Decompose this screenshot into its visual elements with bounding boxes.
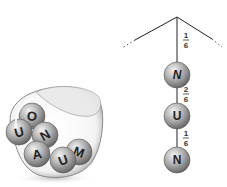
jar-ball-u: U [6, 119, 32, 145]
ball-letter: U [173, 109, 182, 123]
right-branch-continuation [212, 39, 222, 47]
fraction-numerator: 1 [184, 129, 189, 138]
tree-nodes: NUN [164, 62, 190, 173]
branch-probability-2: 26 [183, 85, 189, 104]
jar-ball-a: A [24, 141, 50, 167]
right-branch [177, 17, 212, 39]
fraction-numerator: 2 [184, 85, 189, 94]
tree-node-1: N [164, 62, 190, 88]
jar-ball-u: U [50, 147, 76, 173]
left-branch-continuation [122, 40, 135, 48]
fraction-denominator: 6 [184, 95, 189, 104]
left-branch [135, 17, 177, 40]
fraction-denominator: 6 [184, 139, 189, 148]
branch-probability-3: 16 [183, 129, 189, 148]
fraction-numerator: 1 [184, 31, 189, 40]
tree-node-2: U [164, 103, 190, 129]
branch-probabilities: 162616 [183, 31, 189, 148]
jar: OUNMAU [6, 86, 103, 184]
fraction-denominator: 6 [184, 41, 189, 50]
tree-node-3: N [164, 147, 190, 173]
branch-probability-1: 16 [183, 31, 189, 50]
probability-tree: 162616 NUN [122, 17, 222, 173]
ball-letter: N [173, 68, 182, 82]
ball-letter: N [173, 153, 182, 167]
probability-diagram: OUNMAU 162616 NUN [0, 0, 227, 187]
